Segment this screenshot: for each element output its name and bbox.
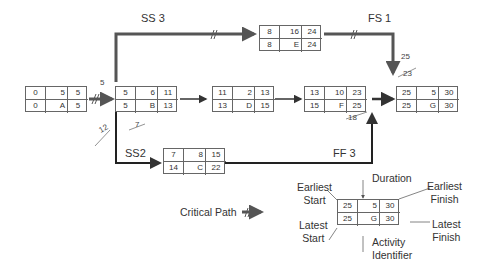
latest-finish: 13 [158, 100, 178, 113]
activity-id: A [46, 100, 68, 113]
legend-latest-finish: Latest Finish [432, 218, 461, 244]
earliest-start: 7 [164, 149, 184, 162]
duration: 6 [136, 87, 158, 100]
earliest-finish: 15 [206, 149, 226, 162]
latest-finish: 30 [380, 213, 400, 226]
earliest-finish: 24 [302, 26, 322, 39]
activity-id: G [417, 100, 439, 113]
latest-start: 15 [305, 100, 325, 113]
activity-id: G [358, 213, 380, 226]
latest-finish: 15 [255, 100, 275, 113]
earliest-start: 13 [305, 87, 325, 100]
activity-node-a: 0 5 5 0 A 5 [25, 86, 87, 112]
annotation-b-start: 5 [100, 78, 104, 87]
legend-latest-start: Latest Start [299, 219, 328, 245]
label-ss3: SS 3 [141, 12, 165, 24]
earliest-start: 8 [260, 26, 280, 39]
duration: 5 [46, 87, 68, 100]
duration: 16 [280, 26, 302, 39]
legend-earliest-start: Earliest Start [297, 181, 332, 207]
latest-start: 13 [213, 100, 233, 113]
duration: 5 [358, 200, 380, 213]
legend-duration: Duration [372, 172, 412, 185]
annotation-struck-23: 23 [403, 69, 412, 78]
annotation-struck-18: 18 [348, 113, 357, 122]
label-fs1: FS 1 [368, 12, 391, 24]
legend-node: 25 5 30 25 G 30 [337, 199, 399, 225]
earliest-finish: 13 [255, 87, 275, 100]
earliest-finish: 5 [68, 87, 88, 100]
legend-activity-identifier: Activity Identifier [372, 236, 412, 262]
annotation-struck-7: 7 [135, 120, 139, 129]
earliest-start: 0 [26, 87, 46, 100]
activity-node-g: 25 5 30 25 G 30 [396, 86, 458, 112]
activity-id: E [280, 39, 302, 52]
earliest-start: 11 [213, 87, 233, 100]
latest-start: 25 [338, 213, 358, 226]
activity-node-b: 5 6 11 5 B 13 [115, 86, 177, 112]
latest-start: 8 [260, 39, 280, 52]
activity-node-f: 13 10 23 15 F 25 [304, 86, 366, 112]
latest-finish: 5 [68, 100, 88, 113]
latest-finish: 25 [347, 100, 367, 113]
earliest-start: 25 [397, 87, 417, 100]
earliest-start: 25 [338, 200, 358, 213]
activity-node-c: 7 8 15 14 C 22 [163, 148, 225, 174]
annotation-g-top: 25 [401, 52, 410, 61]
activity-node-e: 8 16 24 8 E 24 [259, 25, 321, 51]
label-ff3: FF 3 [333, 147, 356, 159]
earliest-finish: 30 [439, 87, 459, 100]
duration: 8 [184, 149, 206, 162]
connector-lines [0, 0, 485, 269]
legend-earliest-finish: Earliest Finish [427, 180, 462, 206]
activity-id: D [233, 100, 255, 113]
earliest-finish: 30 [380, 200, 400, 213]
latest-start: 25 [397, 100, 417, 113]
earliest-start: 5 [116, 87, 136, 100]
activity-id: C [184, 162, 206, 175]
latest-finish: 24 [302, 39, 322, 52]
activity-id: B [136, 100, 158, 113]
activity-node-d: 11 2 13 13 D 15 [212, 86, 274, 112]
earliest-finish: 23 [347, 87, 367, 100]
latest-finish: 22 [206, 162, 226, 175]
label-ss2: SS2 [125, 147, 146, 159]
duration: 10 [325, 87, 347, 100]
duration: 5 [417, 87, 439, 100]
latest-start: 14 [164, 162, 184, 175]
latest-start: 0 [26, 100, 46, 113]
critical-path-label: Critical Path [180, 206, 237, 218]
latest-finish: 30 [439, 100, 459, 113]
activity-id: F [325, 100, 347, 113]
earliest-finish: 11 [158, 87, 178, 100]
latest-start: 5 [116, 100, 136, 113]
duration: 2 [233, 87, 255, 100]
